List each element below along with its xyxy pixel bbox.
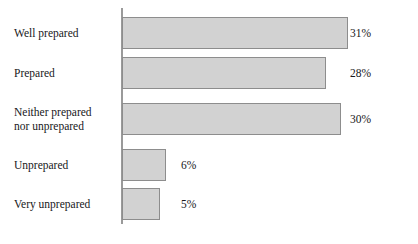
category-label-line: Neither prepared (14, 105, 92, 119)
bar (122, 57, 326, 89)
bar-row: Unprepared 6% (0, 148, 418, 182)
category-label-line: Very unprepared (14, 197, 90, 211)
category-label-line: Well prepared (14, 26, 79, 40)
category-label: Very unprepared (14, 187, 114, 221)
bar-value-label: 31% (350, 16, 371, 50)
bar (122, 17, 348, 49)
category-label-line: Prepared (14, 66, 55, 80)
category-label: Well prepared (14, 16, 114, 50)
category-label: Neither prepared nor unprepared (14, 102, 114, 136)
category-label: Prepared (14, 56, 114, 90)
bar (122, 149, 166, 181)
bar-value-label: 28% (350, 56, 371, 90)
category-label-line: nor unprepared (14, 119, 84, 133)
bar-row: Well prepared 31% (0, 16, 418, 50)
bar-row: Prepared 28% (0, 56, 418, 90)
category-label-line: Unprepared (14, 158, 68, 172)
bar-value-label: 6% (181, 148, 196, 182)
bar-value-label: 5% (181, 187, 196, 221)
bar (122, 103, 341, 135)
category-label: Unprepared (14, 148, 114, 182)
bar-chart: Well prepared 31% Prepared 28% Neither p… (0, 0, 418, 244)
bar-value-label: 30% (350, 102, 371, 136)
bar-row: Very unprepared 5% (0, 187, 418, 221)
bar-row: Neither prepared nor unprepared 30% (0, 102, 418, 136)
bar (122, 188, 160, 220)
